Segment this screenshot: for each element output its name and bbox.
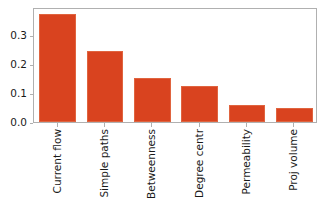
x-tick-mark xyxy=(246,123,247,127)
x-axis: Current flowSimple pathsBetweennessDegre… xyxy=(33,123,317,200)
x-tick-mark xyxy=(104,123,105,127)
bars-layer xyxy=(34,9,316,122)
y-tick-label: 0.3 xyxy=(10,29,27,41)
bar xyxy=(276,108,313,122)
y-axis: 0.00.10.20.3 xyxy=(0,0,33,131)
x-tick-label-text: Degree centr xyxy=(193,129,205,198)
y-tick-label: 0.0 xyxy=(10,116,27,128)
bar xyxy=(87,51,124,122)
x-tick-label-text: Current flow xyxy=(51,129,63,193)
bar xyxy=(229,105,266,122)
bar-chart-figure: 0.00.10.20.3 Current flowSimple pathsBet… xyxy=(0,0,336,200)
x-tick-label-text: Proj volume xyxy=(287,129,299,191)
bar xyxy=(181,86,218,122)
x-tick-mark xyxy=(57,123,58,127)
bar xyxy=(134,78,171,122)
x-tick-mark xyxy=(199,123,200,127)
bar xyxy=(39,14,76,122)
x-tick-mark xyxy=(293,123,294,127)
x-tick-mark xyxy=(151,123,152,127)
x-tick-label-text: Simple paths xyxy=(98,129,110,198)
y-tick-label: 0.1 xyxy=(10,87,27,99)
x-tick-label-text: Permeability xyxy=(240,129,252,194)
plot-area xyxy=(33,8,317,123)
y-tick-label: 0.2 xyxy=(10,58,27,70)
x-tick-label-text: Betweenness xyxy=(145,129,157,199)
